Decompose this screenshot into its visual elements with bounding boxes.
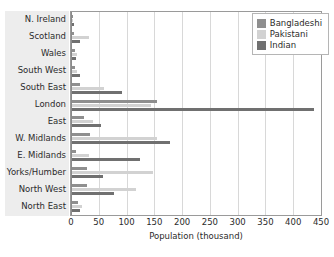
legend-item: Bangladeshi [257,18,322,28]
bar-indian [72,57,76,60]
bar-pakistani [72,70,77,73]
bar-indian [72,209,80,212]
bar-group [72,114,321,131]
category-label: North West [19,184,66,194]
bar-bangladeshi [72,201,78,204]
bar-bangladeshi [72,150,76,153]
x-tick-label: 100 [118,217,134,227]
bar-pakistani [72,188,136,191]
x-tick-label: 250 [202,217,218,227]
bar-pakistani [72,53,77,56]
x-tick-label: 150 [146,217,162,227]
legend-swatch-pakistani [257,30,266,39]
bar-indian [72,108,314,111]
bar-indian [72,141,170,144]
bar-bangladeshi [72,66,75,69]
bar-group [72,147,321,164]
legend-label-indian: Indian [270,40,296,50]
bar-pakistani [72,137,157,140]
category-label: South West [18,65,66,75]
bar-pakistani [72,205,82,208]
x-axis-tick-labels: 050100150200250300350400450 [0,217,334,231]
category-label: London [35,99,66,109]
bar-group [72,97,321,114]
bar-indian [72,23,74,26]
legend-swatch-bangladeshi [257,19,266,28]
category-label: W. Midlands [15,133,66,143]
bar-bangladeshi [72,167,87,170]
bar-bangladeshi [72,49,75,52]
bar-indian [72,74,80,77]
bar-bangladeshi [72,32,74,35]
bar-bangladeshi [72,15,73,18]
bar-indian [72,158,140,161]
bar-group [72,63,321,80]
category-labels: N. IrelandScotlandWalesSouth WestSouth E… [0,11,68,216]
category-label: South East [20,82,66,92]
bar-indian [72,91,122,94]
category-label: North East [21,201,66,211]
bar-indian [72,175,103,178]
legend-swatch-indian [257,41,266,50]
bar-group [72,130,321,147]
x-tick-label: 400 [285,217,301,227]
legend-label-bangladeshi: Bangladeshi [270,18,322,28]
bar-group [72,181,321,198]
bar-pakistani [72,19,73,22]
bar-pakistani [72,87,104,90]
bar-bangladeshi [72,100,157,103]
bar-bangladeshi [72,133,90,136]
bar-pakistani [72,36,89,39]
bar-indian [72,124,101,127]
category-label: East [48,116,66,126]
category-label: Wales [41,48,66,58]
category-label: Yorks/Humber [7,167,66,177]
x-axis-title: Population (thousand) [70,231,322,241]
x-tick-label: 300 [230,217,246,227]
bar-group [72,198,321,215]
bar-group [72,80,321,97]
x-tick-label: 200 [174,217,190,227]
bar-bangladeshi [72,184,87,187]
bar-indian [72,40,80,43]
chart-legend: Bangladeshi Pakistani Indian [252,13,329,55]
legend-label-pakistani: Pakistani [270,29,308,39]
x-tick-label: 450 [313,217,329,227]
bar-pakistani [72,120,93,123]
x-tick-label: 50 [93,217,104,227]
bar-chart: N. IrelandScotlandWalesSouth WestSouth E… [0,0,334,257]
bar-indian [72,192,114,195]
category-label: Scotland [29,31,66,41]
legend-item: Indian [257,40,322,50]
category-label: N. Ireland [25,14,66,24]
bar-bangladeshi [72,83,80,86]
bar-pakistani [72,171,153,174]
legend-item: Pakistani [257,29,322,39]
category-label: E. Midlands [17,150,66,160]
x-tick-label: 0 [68,217,73,227]
bar-bangladeshi [72,116,84,119]
bar-pakistani [72,154,89,157]
bar-group [72,164,321,181]
bar-pakistani [72,104,151,107]
x-tick-label: 350 [257,217,273,227]
